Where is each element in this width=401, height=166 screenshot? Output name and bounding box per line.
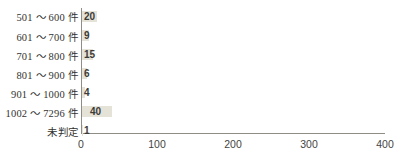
x-tick-label: 200: [203, 138, 263, 150]
bar-value-label: 9: [84, 30, 90, 41]
x-tick-label: 100: [127, 138, 187, 150]
bar: [82, 125, 83, 136]
bar-value-label: 20: [84, 11, 95, 22]
x-tick-label: 300: [279, 138, 339, 150]
category-label: 1002 ～ 7296 件: [0, 108, 78, 120]
category-label: 901 ～ 1000 件: [0, 89, 78, 101]
x-axis-line: [81, 133, 385, 134]
category-label: 701 ～ 800 件: [0, 51, 78, 63]
bar-value-label: 15: [84, 49, 95, 60]
bar-value-label: 40: [90, 106, 101, 117]
category-label: 501 ～ 600 件: [0, 12, 78, 24]
bar-value-label: 1: [84, 125, 90, 136]
category-label: 801 ～ 900 件: [0, 70, 78, 82]
bar-value-label: 4: [84, 87, 90, 98]
x-tick-label: 0: [51, 138, 111, 150]
horizontal-bar-chart: 501 ～ 600 件 601 ～ 700 件 701 ～ 800 件 801 …: [0, 0, 401, 166]
bar-value-label: 6: [84, 68, 90, 79]
category-label: 601 ～ 700 件: [0, 32, 78, 44]
x-tick-label: 400: [355, 138, 401, 150]
